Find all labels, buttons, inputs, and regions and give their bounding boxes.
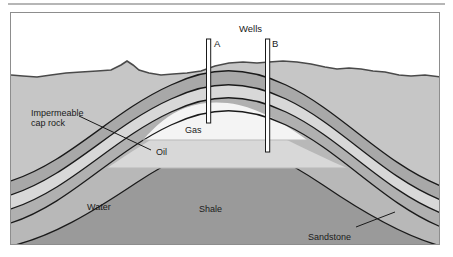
shale-label: Shale <box>199 204 222 214</box>
geology-drawing <box>11 13 440 245</box>
cap-rock-label-line1: Impermeable <box>31 108 84 118</box>
diagram-frame: Wells A B Impermeable cap rock Gas Oil W… <box>10 12 440 245</box>
cap-rock-label-line2: cap rock <box>31 118 84 128</box>
cap-rock-label: Impermeable cap rock <box>31 108 84 129</box>
top-rule <box>8 3 445 5</box>
sandstone-label: Sandstone <box>308 232 351 242</box>
well-b-label: B <box>272 39 278 50</box>
well-a-label: A <box>214 39 220 50</box>
well-b-casing[interactable] <box>266 39 270 152</box>
oil-label: Oil <box>156 147 167 157</box>
gas-label: Gas <box>185 125 202 135</box>
well-a-casing[interactable] <box>207 39 211 123</box>
wells-title: Wells <box>239 24 262 35</box>
well-b[interactable] <box>266 39 270 152</box>
well-a[interactable] <box>207 39 211 123</box>
water-label: Water <box>87 202 111 212</box>
figure-container: Wells A B Impermeable cap rock Gas Oil W… <box>0 0 453 257</box>
